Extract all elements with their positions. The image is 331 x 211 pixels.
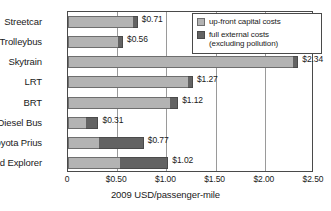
bar-segment-capital — [68, 36, 118, 48]
stacked-bar — [68, 137, 144, 149]
bar-row: $2.34Skytrain — [68, 52, 312, 72]
bar-segment-external — [188, 76, 193, 88]
bar-segment-external — [118, 36, 123, 48]
bar-value-label: $0.56 — [127, 34, 148, 44]
legend-label-capital: up-front capital costs — [209, 17, 281, 27]
legend-swatch-external-icon — [197, 31, 205, 39]
bar-segment-external — [133, 16, 138, 28]
x-axis-title: 2009 USD/passenger-mile — [0, 189, 331, 200]
x-axis-tick-label: $0.50 — [106, 174, 127, 184]
legend-item-capital: up-front capital costs — [197, 17, 317, 27]
x-axis-tick-label: $1.50 — [204, 174, 225, 184]
bar-segment-external — [99, 137, 143, 149]
category-label: Skytrain — [0, 56, 42, 67]
x-axis-tick-label: 0 — [65, 174, 70, 184]
category-label: Diesel Bus — [0, 117, 42, 128]
bar-segment-external — [86, 117, 99, 129]
legend-item-external: full external costs (excluding pollution… — [197, 30, 317, 49]
bar-row: $1.02Ford Explorer — [68, 153, 312, 173]
bar-row: $1.27LRT — [68, 72, 312, 92]
x-axis-tick-label: $2.00 — [253, 174, 274, 184]
bar-chart: $0.71Streetcar$0.56Trolleybus$2.34Skytra… — [0, 0, 331, 211]
bar-value-label: $1.12 — [182, 95, 203, 105]
stacked-bar — [68, 16, 138, 28]
bar-value-label: $1.27 — [197, 74, 218, 84]
category-label: Toyota Prius — [0, 137, 42, 148]
bar-segment-capital — [68, 76, 188, 88]
stacked-bar — [68, 36, 123, 48]
bar-segment-external — [293, 56, 298, 68]
stacked-bar — [68, 117, 98, 129]
bar-value-label: $0.31 — [103, 115, 124, 125]
category-label: Streetcar — [0, 16, 42, 27]
bar-segment-capital — [68, 137, 99, 149]
x-axis-tick-label: $2.50 — [303, 174, 324, 184]
bar-segment-capital — [68, 157, 120, 169]
category-label: Ford Explorer — [0, 157, 42, 168]
bar-value-label: $0.71 — [142, 14, 163, 24]
bar-segment-capital — [68, 117, 86, 129]
chart-legend: up-front capital costs full external cos… — [192, 13, 322, 54]
stacked-bar — [68, 76, 193, 88]
category-label: BRT — [0, 97, 42, 108]
stacked-bar — [68, 56, 298, 68]
category-label: Trolleybus — [0, 36, 42, 47]
category-label: LRT — [0, 76, 42, 87]
x-axis-tick-label: $1.00 — [155, 174, 176, 184]
legend-label-external: full external costs (excluding pollution… — [209, 30, 278, 49]
bar-segment-external — [170, 97, 178, 109]
bar-value-label: $0.77 — [148, 135, 169, 145]
bar-row: $1.12BRT — [68, 93, 312, 113]
x-axis-tick-labels: 0$0.50$1.00$1.50$2.00$2.50 — [67, 174, 313, 186]
bar-segment-capital — [68, 97, 170, 109]
stacked-bar — [68, 157, 168, 169]
bar-segment-external — [120, 157, 168, 169]
bar-row: $0.77Toyota Prius — [68, 133, 312, 153]
bar-value-label: $2.34 — [302, 54, 323, 64]
legend-swatch-capital-icon — [197, 18, 205, 26]
stacked-bar — [68, 97, 178, 109]
bar-segment-capital — [68, 56, 293, 68]
bar-row: $0.31Diesel Bus — [68, 113, 312, 133]
bar-value-label: $1.02 — [172, 155, 193, 165]
bar-segment-capital — [68, 16, 133, 28]
